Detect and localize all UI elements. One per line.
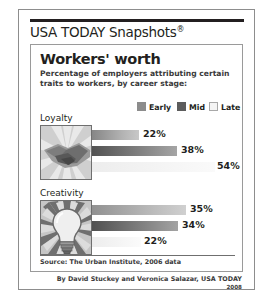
chart-title: Workers' worth bbox=[40, 51, 161, 67]
byline-year: 2008 bbox=[57, 283, 242, 291]
byline-text: By David Stuckey and Veronica Salazar, U… bbox=[57, 275, 242, 283]
legend-swatch-early bbox=[137, 102, 146, 111]
bar-loyalty-early bbox=[86, 130, 139, 140]
source-note: Source: The Urban Institute, 2006 data bbox=[40, 258, 181, 266]
bar-value-creativity-late: 22% bbox=[144, 235, 167, 246]
bar-value-loyalty-early: 22% bbox=[143, 128, 166, 139]
bar-value-loyalty-late: 54% bbox=[217, 160, 240, 171]
bar-value-creativity-early: 35% bbox=[190, 203, 213, 214]
bar-creativity-early bbox=[86, 205, 186, 215]
chart-container: Workers' worth Percentage of employers a… bbox=[30, 44, 243, 272]
masthead-brand-text: USA TODAY Snapshots bbox=[30, 24, 176, 40]
legend-label-early: Early bbox=[149, 103, 171, 112]
legend-label-late: Late bbox=[221, 103, 240, 112]
chart-subtitle: Percentage of employers attributing cert… bbox=[40, 69, 236, 88]
legend-item-late: Late bbox=[209, 96, 240, 108]
bar-loyalty-late bbox=[86, 162, 215, 172]
legend-item-early: Early bbox=[137, 96, 171, 108]
masthead-brand: USA TODAY Snapshots® bbox=[30, 24, 246, 41]
legend-swatch-mid bbox=[177, 102, 186, 111]
group-label-loyalty: Loyalty bbox=[40, 113, 73, 123]
masthead-rule bbox=[30, 19, 244, 22]
source-divider bbox=[40, 255, 235, 256]
handshake-icon bbox=[40, 125, 92, 180]
bar-creativity-mid bbox=[86, 221, 178, 231]
bar-creativity-late bbox=[86, 237, 141, 247]
lightbulb-icon bbox=[40, 200, 92, 255]
legend-label-mid: Mid bbox=[189, 103, 205, 112]
bar-value-creativity-mid: 34% bbox=[182, 219, 205, 230]
outer-frame: USA TODAY Snapshots® Workers' worth Perc… bbox=[18, 9, 255, 290]
legend-swatch-late bbox=[209, 102, 218, 111]
legend-item-mid: Mid bbox=[177, 96, 205, 108]
bar-value-loyalty-mid: 38% bbox=[181, 144, 204, 155]
group-label-creativity: Creativity bbox=[40, 188, 84, 198]
registered-mark: ® bbox=[176, 25, 184, 34]
byline: By David Stuckey and Veronica Salazar, U… bbox=[57, 275, 242, 291]
legend: Early Mid Late bbox=[137, 96, 239, 108]
snapshot-page: USA TODAY Snapshots® Workers' worth Perc… bbox=[0, 0, 271, 299]
bar-loyalty-mid bbox=[86, 146, 177, 156]
